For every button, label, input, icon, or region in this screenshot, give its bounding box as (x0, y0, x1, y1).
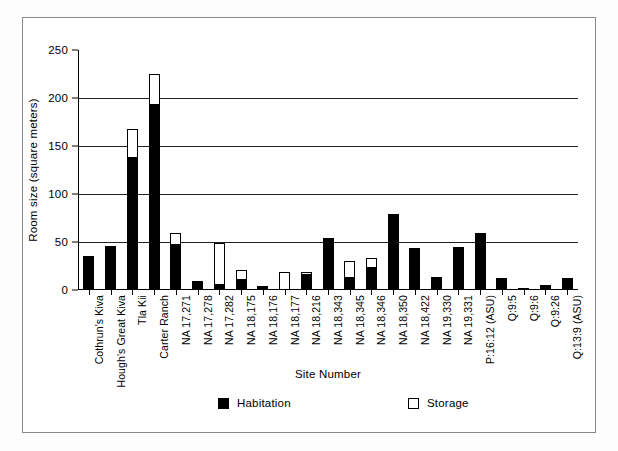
bar-group[interactable] (149, 50, 160, 290)
bar-habitation[interactable] (409, 248, 420, 290)
x-tick-label: NA 18,345 (354, 295, 366, 345)
bar-storage[interactable] (236, 270, 247, 281)
bar-habitation[interactable] (149, 105, 160, 290)
x-tick-label: Tla Kii (136, 295, 148, 325)
bar-habitation[interactable] (127, 158, 138, 290)
bar-habitation[interactable] (475, 233, 486, 290)
bar-group[interactable] (540, 50, 551, 290)
bar-habitation[interactable] (301, 275, 312, 290)
bar-habitation[interactable] (323, 238, 334, 290)
bar-habitation[interactable] (83, 256, 94, 290)
y-tick-label-50: 50 (55, 236, 68, 248)
bar-group[interactable] (127, 50, 138, 290)
y-tick-label-250: 250 (48, 44, 68, 56)
bar-habitation[interactable] (236, 280, 247, 290)
x-tick-label: NA 18,175 (245, 295, 257, 345)
x-tick-label: Q:13:9 (ASU) (571, 295, 583, 359)
bar-group[interactable] (170, 50, 181, 290)
x-tick-label: NA 18,216 (310, 295, 322, 345)
bar-storage[interactable] (279, 272, 290, 290)
bar-group[interactable] (366, 50, 377, 290)
bar-group[interactable] (323, 50, 334, 290)
y-axis: 050100150200250 (0, 50, 78, 290)
bar-habitation[interactable] (344, 278, 355, 290)
bar-group[interactable] (344, 50, 355, 290)
bar-storage[interactable] (149, 74, 160, 105)
x-tick-label: Q:9:5 (506, 295, 518, 321)
bar-group[interactable] (257, 50, 268, 290)
bar-habitation[interactable] (105, 246, 116, 290)
bar-habitation[interactable] (388, 214, 399, 290)
x-tick-label: NA 17,282 (223, 295, 235, 345)
x-tick-label: NA 18,350 (397, 295, 409, 345)
x-tick-label: NA 18,177 (289, 295, 301, 345)
bar-habitation[interactable] (453, 247, 464, 290)
y-tick-label-100: 100 (48, 188, 68, 200)
x-tick-label: NA 18,343 (332, 295, 344, 345)
x-tick-label: NA 17,278 (202, 295, 214, 345)
bar-storage[interactable] (127, 129, 138, 159)
bar-habitation[interactable] (431, 277, 442, 290)
bar-storage[interactable] (214, 243, 225, 285)
legend-item-habitation[interactable]: Habitation (218, 397, 291, 409)
x-tick-label: NA 18,422 (419, 295, 431, 345)
legend-swatch-habitation (218, 398, 229, 409)
x-axis-title: Site Number (78, 368, 578, 380)
x-axis-tick-labels: Cothrun's KivaHough's Great KivaTla KiiC… (78, 295, 578, 367)
bar-group[interactable] (214, 50, 225, 290)
bar-storage[interactable] (170, 233, 181, 245)
bar-group[interactable] (105, 50, 116, 290)
x-tick-label: Cothrun's Kiva (93, 295, 105, 364)
bar-storage[interactable] (301, 272, 312, 275)
bar-group[interactable] (192, 50, 203, 290)
bar-storage[interactable] (344, 261, 355, 278)
bar-storage[interactable] (366, 258, 377, 268)
x-tick-label: NA 19,331 (462, 295, 474, 345)
bar-habitation[interactable] (366, 268, 377, 290)
bar-group[interactable] (83, 50, 94, 290)
legend-label-storage: Storage (427, 397, 469, 409)
bar-group[interactable] (496, 50, 507, 290)
x-tick-label: NA 18,346 (375, 295, 387, 345)
bar-group[interactable] (475, 50, 486, 290)
figure-canvas: Room size (square meters) 05010015020025… (0, 0, 618, 451)
chart-legend: HabitationStorage (78, 392, 578, 414)
bar-group[interactable] (518, 50, 529, 290)
bar-group[interactable] (236, 50, 247, 290)
bar-group[interactable] (562, 50, 573, 290)
bar-group[interactable] (409, 50, 420, 290)
x-tick-label: P:16:12 (ASU) (484, 295, 496, 364)
plot-area (78, 50, 578, 290)
bar-group[interactable] (279, 50, 290, 290)
y-tick-label-0: 0 (61, 284, 68, 296)
x-tick-label: NA 18,176 (267, 295, 279, 345)
legend-swatch-storage (408, 398, 419, 409)
legend-label-habitation: Habitation (237, 397, 291, 409)
bar-group[interactable] (453, 50, 464, 290)
x-tick-label: Q:9:26 (549, 295, 561, 327)
bar-habitation[interactable] (192, 281, 203, 290)
x-tick-label: Carter Ranch (158, 295, 170, 359)
y-tick-label-150: 150 (48, 140, 68, 152)
bar-habitation[interactable] (562, 278, 573, 290)
bar-habitation[interactable] (496, 278, 507, 290)
x-tick-label: NA 17,271 (180, 295, 192, 345)
bar-group[interactable] (388, 50, 399, 290)
x-tick-label: Q:9:6 (528, 295, 540, 321)
legend-item-storage[interactable]: Storage (408, 397, 469, 409)
bar-group[interactable] (301, 50, 312, 290)
y-tick-label-200: 200 (48, 92, 68, 104)
bar-group[interactable] (431, 50, 442, 290)
bar-habitation[interactable] (170, 245, 181, 290)
x-tick-label: NA 19,330 (441, 295, 453, 345)
